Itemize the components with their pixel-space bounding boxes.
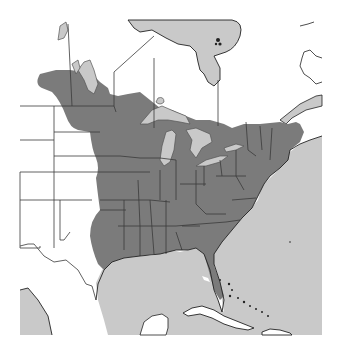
range-map	[0, 0, 338, 353]
